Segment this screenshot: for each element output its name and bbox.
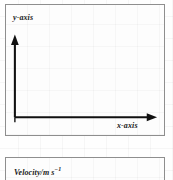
y-axis-label: y-axis <box>13 13 33 22</box>
velocity-axis-label-superscript: −1 <box>55 166 62 172</box>
x-axis-arrowhead-icon <box>147 113 157 121</box>
blank-axes-diagram-panel: y-axis x-axis <box>5 4 165 136</box>
axes-drawing <box>6 5 164 135</box>
y-axis-arrowhead-icon <box>11 35 19 45</box>
velocity-axis-label: Velocity/m s−1 <box>14 166 61 177</box>
velocity-axis-label-text: Velocity/m s <box>14 168 55 177</box>
diagram-page: y-axis x-axis Velocity/m s−1 <box>0 0 173 180</box>
x-axis-label: x-axis <box>117 121 138 130</box>
velocity-axis-diagram-panel: Velocity/m s−1 <box>5 157 165 180</box>
